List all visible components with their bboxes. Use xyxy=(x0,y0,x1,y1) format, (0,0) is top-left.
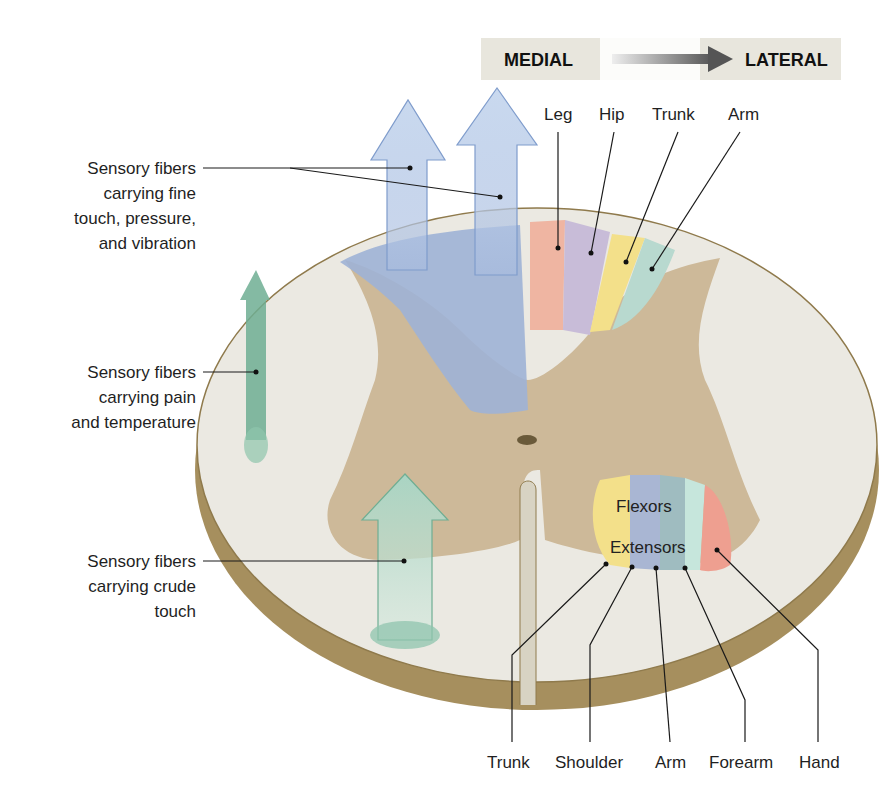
label-hand: Hand xyxy=(799,753,840,772)
svg-text:and temperature: and temperature xyxy=(71,413,196,432)
label-arm: Arm xyxy=(728,105,759,124)
label-leg: Leg xyxy=(544,105,572,124)
svg-text:carrying fine: carrying fine xyxy=(103,184,196,203)
lateral-label: LATERAL xyxy=(745,50,828,70)
fine-touch-label: Sensory fibers carrying fine touch, pres… xyxy=(74,159,196,253)
svg-text:Sensory fibers: Sensory fibers xyxy=(87,552,196,571)
medial-label: MEDIAL xyxy=(504,50,573,70)
label-hip: Hip xyxy=(599,105,625,124)
svg-text:Sensory fibers: Sensory fibers xyxy=(87,159,196,178)
svg-text:carrying pain: carrying pain xyxy=(99,388,196,407)
label-forearm: Forearm xyxy=(709,753,773,772)
svg-text:touch: touch xyxy=(154,602,196,621)
svg-text:touch, pressure,: touch, pressure, xyxy=(74,209,196,228)
medial-lateral-header: MEDIAL LATERAL xyxy=(481,38,841,80)
svg-text:carrying crude: carrying crude xyxy=(88,577,196,596)
central-canal xyxy=(517,435,537,445)
pain-temperature-label: Sensory fibers carrying pain and tempera… xyxy=(71,363,196,432)
extensors-label: Extensors xyxy=(610,538,686,557)
svg-text:and vibration: and vibration xyxy=(99,234,196,253)
motor-somatotopy: Flexors Extensors xyxy=(593,475,731,571)
label-trunk-ventral: Trunk xyxy=(487,753,530,772)
spinal-cord-diagram: MEDIAL LATERAL Flexors E xyxy=(0,0,887,799)
band-leg xyxy=(530,220,565,330)
ventral-fissure xyxy=(520,481,536,705)
crude-touch-label: Sensory fibers carrying crude touch xyxy=(87,552,196,621)
label-arm-ventral: Arm xyxy=(655,753,686,772)
svg-text:Sensory fibers: Sensory fibers xyxy=(87,363,196,382)
label-shoulder: Shoulder xyxy=(555,753,623,772)
spinal-cord-section: Flexors Extensors xyxy=(195,208,879,710)
flexors-label: Flexors xyxy=(616,497,672,516)
label-trunk: Trunk xyxy=(652,105,695,124)
